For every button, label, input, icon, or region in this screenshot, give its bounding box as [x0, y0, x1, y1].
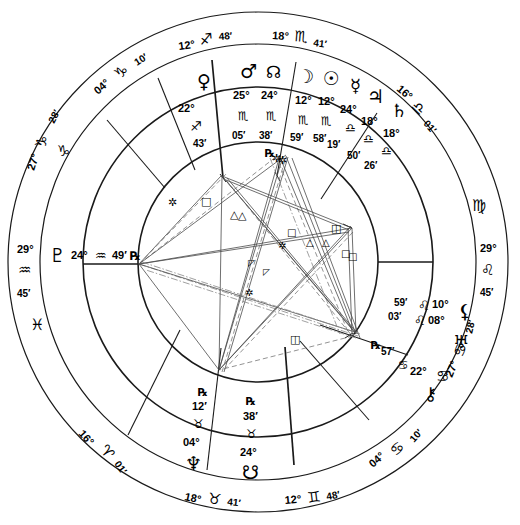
uranus-minute: 03′ — [388, 311, 402, 322]
pluto-sign-icon: ♒ — [95, 248, 107, 263]
mercury-icon: ☿ — [350, 75, 361, 96]
aspect-trine-icon-3: △ — [306, 237, 314, 248]
lilith-degree: 10° — [432, 298, 449, 310]
venus-minute: 43′ — [193, 138, 207, 149]
north-node-icon: ☊ — [266, 62, 281, 82]
neptune-icon: ♆ — [185, 452, 202, 474]
neptune-sign-icon: ♉ — [193, 417, 204, 431]
aspect-square-icon-2: □ — [287, 227, 296, 238]
saturn-minute: 26′ — [364, 160, 378, 171]
aspect-trine-icon-2: △ — [238, 209, 247, 222]
south-node-degree: 24° — [240, 446, 257, 458]
aspect-trine-icon-4: △ — [322, 237, 330, 248]
aspect-sextile-icon-3: ✲ — [245, 287, 253, 298]
pluto-icon: ♇ — [49, 244, 66, 266]
south-node-sign-icon: ♉ — [246, 427, 257, 441]
pluto-degree: 24° — [71, 249, 88, 261]
mars-degree: 25° — [233, 89, 250, 101]
venus-degree: 22° — [178, 102, 195, 114]
aspect-circle — [138, 142, 378, 382]
aspect-conjunction-icon-2: ✲ — [278, 154, 287, 167]
moon-sign-icon: ♏ — [298, 113, 309, 127]
mars-minute: 05′ — [232, 130, 246, 141]
north-node-degree: 24° — [261, 89, 278, 101]
cusp-ic-sign-icon: ♊ — [306, 487, 322, 507]
venus-sign-icon: ♐ — [190, 119, 202, 134]
moon-icon: ☽ — [297, 65, 314, 87]
south-node-minute: 38′ — [243, 410, 258, 422]
sun-degree: 12° — [318, 95, 335, 107]
cusp-dsc-sign-icon: ♌ — [481, 261, 494, 279]
sign-marker-virgo-icon: ♍ — [472, 196, 486, 215]
pluto-retrograde-icon: ℞ — [130, 249, 141, 263]
lilith-minute: 59′ — [394, 297, 408, 308]
mercury-minute: 19′ — [327, 139, 341, 150]
chiron-degree: 22° — [410, 365, 427, 377]
mercury-sign-icon: ♎ — [345, 121, 356, 135]
neptune-degree: 04° — [183, 436, 200, 448]
chiron-icon: ⚷ — [424, 383, 437, 404]
cusp-dsc-degree: 29° — [480, 242, 497, 254]
saturn-icon: ♄ — [391, 100, 407, 121]
neptune-minute: 12′ — [192, 400, 207, 412]
sun-minute: 58′ — [313, 133, 327, 144]
cusp-3-degree: 18° — [184, 490, 203, 505]
moon-minute: 59′ — [290, 132, 304, 143]
chiron-minute: 57′ — [381, 346, 395, 357]
north-node-minute: 38′ — [259, 130, 273, 141]
natal-chart-wheel: ✲ □ △ △ ✲ ✲ ◫ □ ✲ △ △ □ □ ◸ ◸ ✲ ◫ 12° ♐ … — [0, 0, 520, 525]
sign-marker-cancer-icon: ♋ — [436, 367, 449, 385]
cusp-ic-minute: 48′ — [325, 489, 341, 502]
neptune-retrograde-icon: ℞ — [198, 386, 208, 399]
mars-icon: ♂ — [240, 60, 257, 82]
cusp-dsc-minute: 45′ — [480, 287, 494, 298]
chiron-retrograde-icon: ℞ — [371, 339, 381, 352]
south-node-retrograde-icon: ℞ — [246, 395, 256, 408]
aspect-opposition-icon-2: ◫ — [290, 333, 300, 346]
aspect-opposition-icon: ◫ — [331, 222, 341, 235]
cusp-mc-minute: 48′ — [218, 30, 233, 42]
jupiter-minute: 50′ — [347, 150, 361, 161]
sign-marker-capricorn-icon: ♑ — [57, 142, 70, 160]
uranus-sign-icon: ♌ — [414, 313, 426, 328]
cusp-9-minute: 41′ — [313, 37, 328, 50]
chiron-sign-icon: ♋ — [398, 358, 409, 372]
cusp-9-sign-icon: ♏ — [294, 27, 310, 46]
cusp-asc-degree: 29° — [17, 243, 34, 255]
lilith-sign-icon: ♌ — [418, 298, 430, 313]
aspect-square-icon-4: □ — [348, 251, 357, 262]
sign-marker-pisces-icon: ♓ — [30, 315, 44, 334]
sun-icon: ☉ — [323, 67, 340, 89]
aspect-square-icon: □ — [201, 195, 211, 208]
uranus-icon: ♅ — [453, 331, 469, 352]
jupiter-icon: ♃ — [367, 85, 384, 107]
cusp-asc-minute: 45′ — [17, 288, 31, 299]
north-node-sign-icon: ♏ — [266, 109, 277, 123]
mercury-degree: 24° — [340, 103, 357, 115]
cusp-9-degree: 18° — [272, 29, 289, 42]
sun-sign-icon: ♏ — [321, 114, 332, 128]
venus-icon: ♀ — [197, 70, 211, 92]
aspect-sextile-icon-2: ✲ — [278, 240, 286, 251]
lilith-icon: ⚸ — [458, 300, 472, 322]
north-node-retrograde-icon: ℞ — [265, 147, 275, 160]
cusp-mc-degree: 12° — [178, 38, 196, 52]
cusp-mc-sign-icon: ♐ — [199, 30, 214, 49]
aspect-semisextile-icon-2: ◸ — [263, 267, 270, 277]
uranus-degree: 08° — [428, 314, 445, 326]
south-node-icon: ☋ — [242, 461, 259, 483]
saturn-degree: 18° — [383, 127, 400, 139]
cusp-asc-sign-icon: ♒ — [18, 261, 31, 279]
saturn-sign-icon: ♎ — [381, 144, 392, 158]
cusp-3-minute: 41′ — [227, 496, 242, 508]
jupiter-degree: 18° — [361, 115, 378, 127]
aspect-semisextile-icon: ◸ — [248, 258, 255, 268]
mars-sign-icon: ♏ — [238, 109, 249, 123]
aspect-sextile-icon: ✲ — [168, 196, 177, 209]
cusp-ic-degree: 12° — [284, 493, 302, 506]
pluto-minute: 49′ — [112, 249, 127, 261]
moon-degree: 12° — [295, 94, 312, 106]
cusp-3-sign-icon: ♉ — [206, 489, 222, 509]
jupiter-sign-icon: ♎ — [363, 132, 374, 146]
